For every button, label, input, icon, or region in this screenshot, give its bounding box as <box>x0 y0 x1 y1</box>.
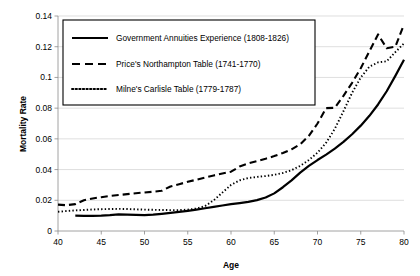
legend-label-0: Government Annuities Experience (1808-18… <box>116 33 289 43</box>
legend-label-2: Milne's Carlisle Table (1779-1787) <box>116 84 241 94</box>
y-tick-label: 0.12 <box>35 42 52 52</box>
y-tick-label: 0 <box>47 226 52 236</box>
x-tick-label: 40 <box>53 237 63 247</box>
y-tick-label: 0.04 <box>35 165 52 175</box>
x-tick-label: 70 <box>313 237 323 247</box>
y-axis-title: Mortality Rate <box>18 96 28 152</box>
x-tick-label: 65 <box>270 237 280 247</box>
y-tick-label: 0.08 <box>35 103 52 113</box>
x-tick-label: 55 <box>183 237 193 247</box>
y-tick-label: 0.1 <box>40 72 52 82</box>
mortality-rate-line-chart: 00.020.040.060.080.10.120.14 40455055606… <box>0 0 420 276</box>
y-tick-label: 0.14 <box>35 11 52 21</box>
y-tick-label: 0.06 <box>35 134 52 144</box>
x-tick-label: 75 <box>356 237 366 247</box>
x-axis-tick-marks <box>58 231 404 235</box>
x-tick-label: 50 <box>140 237 150 247</box>
y-axis-tick-labels: 00.020.040.060.080.10.120.14 <box>35 11 52 236</box>
legend-label-1: Price's Northampton Table (1741-1770) <box>116 59 261 69</box>
x-tick-label: 80 <box>399 237 409 247</box>
x-tick-label: 45 <box>97 237 107 247</box>
x-axis-tick-labels: 404550556065707580 <box>53 237 409 247</box>
x-axis-title: Age <box>223 260 239 270</box>
chart-container: 00.020.040.060.080.10.120.14 40455055606… <box>0 0 420 276</box>
y-tick-label: 0.02 <box>35 195 52 205</box>
chart-legend: Government Annuities Experience (1808-18… <box>63 20 315 105</box>
x-tick-label: 60 <box>226 237 236 247</box>
